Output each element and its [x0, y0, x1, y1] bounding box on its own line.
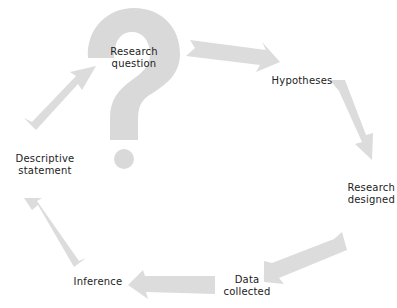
node-hypotheses: Hypotheses — [262, 75, 342, 87]
node-research-question: Research question — [104, 46, 164, 70]
arrow-question-to-hypotheses — [186, 40, 280, 72]
question-mark-icon — [88, 8, 180, 169]
node-inference: Inference — [68, 276, 128, 288]
arrow-designed-to-data — [264, 232, 347, 284]
arrow-data-to-inference — [128, 270, 215, 299]
node-data-collected: Data collected — [222, 274, 272, 298]
node-descriptive-statement: Descriptive statement — [10, 153, 80, 177]
arrow-inference-to-descriptive — [24, 198, 86, 267]
arrow-descriptive-to-question — [24, 66, 96, 130]
arrow-hypotheses-to-designed — [330, 80, 373, 160]
node-research-designed: Research designed — [335, 182, 395, 206]
